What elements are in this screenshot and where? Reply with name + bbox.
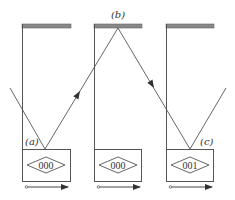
counter-c: 001	[183, 160, 198, 171]
velocity-arrow-a	[25, 186, 68, 189]
velocity-arrow-c	[169, 186, 212, 189]
velocity-arrow-b	[97, 186, 140, 189]
label-b: (b)	[111, 9, 125, 20]
panel-a: 000 (a)	[22, 24, 71, 188]
arrowhead-up-icon	[73, 89, 82, 99]
ray-arrowheads	[73, 80, 156, 100]
light-path	[10, 28, 226, 149]
mirror-c	[166, 24, 214, 28]
label-a: (a)	[25, 136, 39, 147]
mirror-b	[94, 24, 142, 28]
counter-b: 000	[111, 160, 126, 171]
panel-c: 001 (c)	[166, 24, 214, 188]
ray-down	[118, 28, 190, 149]
panel-b: 000 (b)	[94, 9, 142, 188]
light-clock-diagram: 000 (a) 000 (b) 001 (c)	[0, 0, 235, 200]
label-c: (c)	[200, 136, 214, 147]
ray-up	[45, 28, 118, 149]
mirror-a	[22, 24, 71, 28]
counter-a: 000	[39, 160, 54, 171]
arrowhead-down-icon	[147, 80, 156, 90]
